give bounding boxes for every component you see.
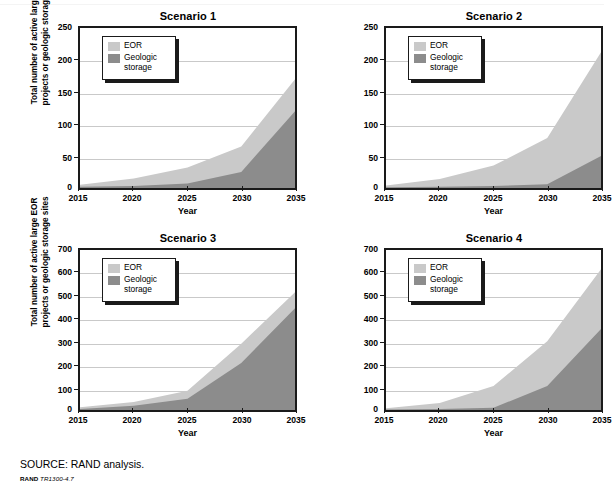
y-tick-label: 400 xyxy=(36,314,72,324)
y-tick-label: 600 xyxy=(36,267,72,277)
x-tick-label: 2020 xyxy=(418,193,458,203)
legend-label-eor: EOR xyxy=(430,263,448,273)
y-tick-label: 700 xyxy=(342,244,378,254)
y-tick-label: 150 xyxy=(342,88,378,98)
x-tick-label: 2035 xyxy=(582,193,616,203)
legend-swatch-geologic xyxy=(414,276,426,285)
legend-item-geologic: Geologic storage xyxy=(414,275,477,294)
y-tick-label: 200 xyxy=(36,55,72,65)
legend-box: EOR Geologic storage xyxy=(408,258,482,302)
x-axis-label: Year xyxy=(384,428,603,438)
y-tick-label: 150 xyxy=(36,88,72,98)
x-tick-label: 2015 xyxy=(364,415,404,425)
legend-item-geologic: Geologic storage xyxy=(414,53,477,72)
y-tick-label: 100 xyxy=(36,385,72,395)
legend-item-eor: EOR xyxy=(414,41,477,51)
x-tick-label: 2015 xyxy=(364,193,404,203)
y-tick-label: 100 xyxy=(342,120,378,130)
legend-swatch-eor xyxy=(414,42,426,51)
panel-title: Scenario 2 xyxy=(384,10,604,22)
rand-wordmark: RAND xyxy=(20,475,38,482)
y-tick-label: 500 xyxy=(36,291,72,301)
top-rule xyxy=(0,4,604,5)
panel-title: Scenario 4 xyxy=(384,232,604,244)
x-tick-label: 2030 xyxy=(222,193,262,203)
legend-label-eor: EOR xyxy=(124,263,142,273)
x-tick-label: 2015 xyxy=(58,193,98,203)
legend-label-geologic-line2: storage xyxy=(124,62,152,72)
x-tick-label: 2025 xyxy=(167,193,207,203)
x-tick-label: 2020 xyxy=(418,415,458,425)
legend-swatch-geologic xyxy=(414,54,426,63)
x-axis-label: Year xyxy=(78,206,297,216)
source-note: SOURCE: RAND analysis. xyxy=(20,458,144,470)
panel-title: Scenario 3 xyxy=(78,232,298,244)
x-tick-label: 2030 xyxy=(528,415,568,425)
legend-swatch-geologic xyxy=(108,276,120,285)
y-tick-label: 100 xyxy=(342,385,378,395)
legend-label-geologic-line2: storage xyxy=(124,284,152,294)
y-tick-label: 500 xyxy=(342,291,378,301)
x-tick-label: 2025 xyxy=(167,415,207,425)
legend-box: EOR Geologic storage xyxy=(102,36,176,80)
legend-label-geologic: Geologic storage xyxy=(430,275,463,294)
legend-swatch-eor xyxy=(108,42,120,51)
rand-figure-number: TR1300-4.7 xyxy=(40,475,74,482)
y-tick-label: 100 xyxy=(36,120,72,130)
legend-label-geologic: Geologic storage xyxy=(124,275,157,294)
legend-label-eor: EOR xyxy=(124,41,142,51)
y-tick-label: 50 xyxy=(342,153,378,163)
panel-grid: Scenario 1 Total number of active large … xyxy=(0,10,604,450)
y-tick-label: 0 xyxy=(342,182,378,192)
y-tick-label: 0 xyxy=(342,404,378,414)
y-tick-label: 200 xyxy=(36,361,72,371)
legend-item-eor: EOR xyxy=(414,263,477,273)
x-tick-label: 2025 xyxy=(473,193,513,203)
legend-swatch-eor xyxy=(414,264,426,273)
x-tick-label: 2035 xyxy=(582,415,616,425)
y-tick-label: 700 xyxy=(36,244,72,254)
y-tick-label: 300 xyxy=(36,338,72,348)
legend-label-geologic-line1: Geologic xyxy=(124,52,157,62)
x-tick-label: 2025 xyxy=(473,415,513,425)
x-tick-label: 2035 xyxy=(276,193,316,203)
x-tick-label: 2030 xyxy=(222,415,262,425)
y-tick-label: 250 xyxy=(36,22,72,32)
legend-label-geologic-line2: storage xyxy=(430,284,458,294)
legend-item-geologic: Geologic storage xyxy=(108,275,171,294)
y-tick-label: 50 xyxy=(36,153,72,163)
legend-item-eor: EOR xyxy=(108,41,171,51)
y-tick-label: 400 xyxy=(342,314,378,324)
legend-item-geologic: Geologic storage xyxy=(108,53,171,72)
x-axis-label: Year xyxy=(384,206,603,216)
x-axis-label: Year xyxy=(78,428,297,438)
legend-label-geologic-line1: Geologic xyxy=(430,274,463,284)
legend-label-geologic: Geologic storage xyxy=(430,53,463,72)
legend-label-geologic: Geologic storage xyxy=(124,53,157,72)
legend-box: EOR Geologic storage xyxy=(102,258,176,302)
legend-swatch-eor xyxy=(108,264,120,273)
y-tick-label: 250 xyxy=(342,22,378,32)
y-tick-label: 200 xyxy=(342,55,378,65)
rand-figure-id: RAND TR1300-4.7 xyxy=(20,475,74,482)
x-tick-label: 2015 xyxy=(58,415,98,425)
legend-label-eor: EOR xyxy=(430,41,448,51)
panel-title: Scenario 1 xyxy=(78,10,298,22)
x-tick-label: 2020 xyxy=(112,193,152,203)
y-tick-label: 600 xyxy=(342,267,378,277)
legend-box: EOR Geologic storage xyxy=(408,36,482,80)
y-tick-label: 200 xyxy=(342,361,378,371)
x-tick-label: 2020 xyxy=(112,415,152,425)
legend-swatch-geologic xyxy=(108,54,120,63)
legend-label-geologic-line2: storage xyxy=(430,62,458,72)
legend-label-geologic-line1: Geologic xyxy=(430,52,463,62)
y-tick-label: 0 xyxy=(36,404,72,414)
legend-item-eor: EOR xyxy=(108,263,171,273)
x-tick-label: 2035 xyxy=(276,415,316,425)
legend-label-geologic-line1: Geologic xyxy=(124,274,157,284)
y-tick-label: 300 xyxy=(342,338,378,348)
x-tick-label: 2030 xyxy=(528,193,568,203)
